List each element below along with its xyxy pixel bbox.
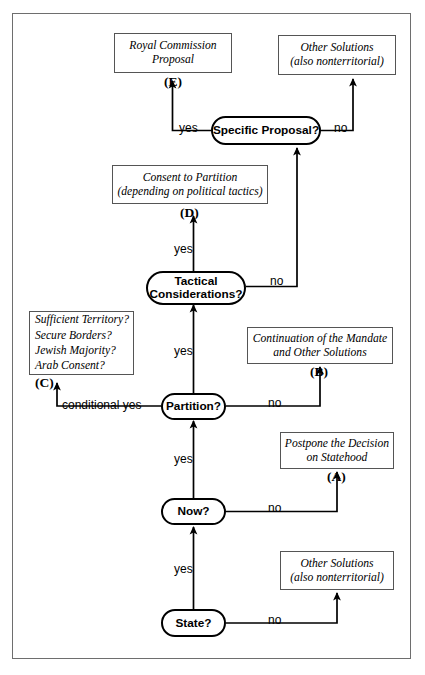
royal-commission-line1: Royal Commission — [129, 39, 216, 53]
other-solutions-bottom-line1: Other Solutions — [290, 557, 384, 571]
outcome-postpone-decision: Postpone the Decision on Statehood — [280, 432, 394, 469]
other-solutions-top-line2: (also nonterritorial) — [290, 55, 384, 69]
consent-partition-line2: (depending on political tactics) — [117, 185, 262, 199]
outcome-other-solutions-bottom: Other Solutions (also nonterritorial) — [280, 551, 394, 590]
decision-tactical-line2: Considerations? — [149, 288, 242, 301]
decision-partition-label: Partition? — [166, 400, 221, 413]
consent-partition-line1: Consent to Partition — [117, 171, 262, 185]
edge-label-tactical-yes: yes — [174, 242, 193, 256]
continuation-mandate-line2: and Other Solutions — [253, 346, 387, 360]
edge-label-specific-no: no — [334, 121, 347, 135]
conditions-line1: Sufficient Territory? — [35, 312, 129, 327]
outcome-continuation-mandate: Continuation of the Mandate and Other So… — [247, 327, 393, 364]
decision-now[interactable]: Now? — [161, 498, 226, 525]
postpone-decision-line1: Postpone the Decision — [285, 437, 389, 451]
outcome-royal-commission-proposal: Royal Commission Proposal — [114, 33, 232, 73]
outcome-conditions: Sufficient Territory? Secure Borders? Je… — [29, 311, 134, 375]
tag-e: (E) — [164, 74, 182, 90]
decision-state-label: State? — [175, 617, 211, 630]
edge-label-specific-yes: yes — [179, 121, 198, 135]
tag-d: (D) — [180, 205, 199, 221]
edge-label-now-no: no — [268, 501, 281, 515]
conditions-line4: Arab Consent? — [35, 358, 129, 373]
royal-commission-line2: Proposal — [129, 53, 216, 67]
decision-specific-proposal[interactable]: Specific Proposal? — [211, 116, 321, 145]
tag-b: (B) — [310, 364, 328, 380]
decision-specific-proposal-label: Specific Proposal? — [213, 124, 319, 137]
edge-label-state-yes: yes — [174, 562, 193, 576]
edge-label-partition-no: no — [268, 396, 281, 410]
other-solutions-bottom-line2: (also nonterritorial) — [290, 571, 384, 585]
postpone-decision-line2: on Statehood — [285, 451, 389, 465]
outcome-other-solutions-top: Other Solutions (also nonterritorial) — [278, 35, 396, 75]
edge-label-tactical-no: no — [270, 274, 283, 288]
decision-partition[interactable]: Partition? — [161, 393, 226, 420]
edge-label-partition-conditional-yes: conditional yes — [62, 398, 141, 412]
outcome-consent-to-partition: Consent to Partition (depending on polit… — [112, 165, 268, 204]
decision-state[interactable]: State? — [161, 609, 226, 637]
tag-a: (A) — [327, 469, 346, 485]
edge-state-no — [226, 593, 337, 623]
edge-label-partition-yes: yes — [174, 344, 193, 358]
flowchart-page: Royal Commission Proposal (E) Other Solu… — [0, 0, 425, 675]
edge-label-now-yes: yes — [174, 452, 193, 466]
decision-tactical-considerations[interactable]: Tactical Considerations? — [146, 271, 246, 305]
conditions-line3: Jewish Majority? — [35, 343, 129, 358]
edge-label-state-no: no — [268, 613, 281, 627]
other-solutions-top-line1: Other Solutions — [290, 41, 384, 55]
edge-now-no — [226, 472, 337, 512]
conditions-line2: Secure Borders? — [35, 328, 129, 343]
continuation-mandate-line1: Continuation of the Mandate — [253, 332, 387, 346]
decision-now-label: Now? — [177, 505, 209, 518]
tag-c: (C) — [35, 375, 54, 391]
